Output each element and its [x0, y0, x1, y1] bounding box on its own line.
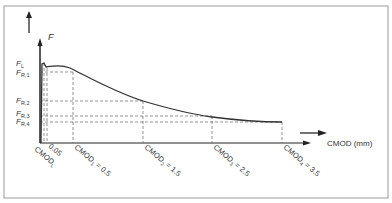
load-cmod-diagram: F CMOD (mm) FL FR,1 FR,2 FR,3 FR,4 CMODL…: [0, 0, 392, 203]
y-axis-label: F: [48, 32, 54, 42]
figure-frame: [4, 6, 388, 198]
x-axis-label: CMOD (mm): [327, 139, 373, 148]
